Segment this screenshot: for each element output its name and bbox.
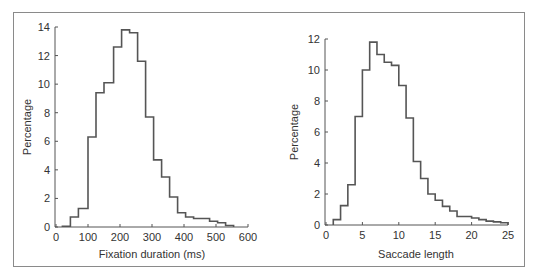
y-tick-label: 4 [44,164,50,176]
x-tick-label: 5 [359,229,365,241]
y-tick-label: 2 [44,192,50,204]
y-tick-label: 10 [38,78,50,90]
x-tick-label: 300 [143,231,161,243]
fixation-histogram-line [62,30,233,227]
y-tick-label: 2 [314,188,320,200]
x-tick-label: 600 [239,231,257,243]
y-tick-label: 14 [38,21,50,33]
y-tick-label: 4 [314,157,320,169]
x-tick-label: 20 [465,229,477,241]
y-tick-label: 6 [314,126,320,138]
x-tick-label: 15 [429,229,441,241]
fixation-x-axis-label: Fixation duration (ms) [99,248,205,260]
y-tick-label: 0 [314,219,320,231]
y-tick-label: 8 [314,95,320,107]
y-tick-label: 6 [44,135,50,147]
x-tick-label: 10 [393,229,405,241]
fixation-y-axis-label: Percentage [21,99,33,155]
y-tick-label: 12 [38,50,50,62]
fixation-duration-histogram: 024681012140100200300400500600 Fixation … [21,21,257,260]
saccade-axes: 0246810120510152025 [308,33,514,241]
x-tick-label: 200 [111,231,129,243]
saccade-length-histogram: 0246810120510152025 Saccade length Perce… [288,33,514,260]
y-tick-label: 0 [44,221,50,233]
fixation-axes: 024681012140100200300400500600 [38,21,257,243]
x-tick-label: 0 [323,229,329,241]
saccade-x-axis-label: Saccade length [378,248,454,260]
y-tick-label: 8 [44,107,50,119]
histogram-figure: 024681012140100200300400500600 Fixation … [0,0,535,277]
x-tick-label: 400 [175,231,193,243]
y-tick-label: 10 [308,64,320,76]
x-tick-label: 500 [207,231,225,243]
x-tick-label: 25 [502,229,514,241]
x-tick-label: 100 [79,231,97,243]
x-tick-label: 0 [53,231,59,243]
y-tick-label: 12 [308,33,320,45]
saccade-y-axis-label: Percentage [288,104,300,160]
saccade-histogram-line [333,42,508,225]
